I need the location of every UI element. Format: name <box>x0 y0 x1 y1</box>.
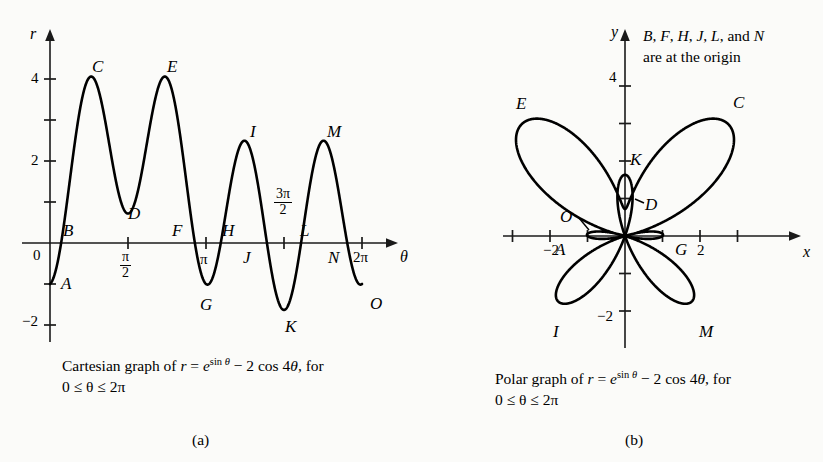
polar-point-M: M <box>699 323 713 340</box>
cartesian-caption-for: , for <box>298 357 324 374</box>
polar-caption-rest: − 2 cos 4 <box>637 370 697 387</box>
cartesian-point-A: A <box>61 275 71 292</box>
polar-point-A: A <box>555 241 565 258</box>
polar-x-axis-name: x <box>803 244 810 260</box>
subfigure-label-b: (b) <box>625 432 643 448</box>
cartesian-xtick-pi: π <box>200 252 208 267</box>
polar-origin-note-line2: are at the origin <box>643 48 741 65</box>
polar-caption-prefix: Polar graph of <box>495 370 588 387</box>
cartesian-point-D: D <box>128 205 140 222</box>
cartesian-point-M: M <box>327 123 341 140</box>
cartesian-caption-theta2: θ <box>290 357 298 374</box>
cartesian-point-F: F <box>172 222 182 239</box>
figure-container: r θ 4 2 0 −2 π2 π 3π2 2π A B C D E F G H… <box>0 0 823 462</box>
cartesian-ytick-4: 4 <box>31 71 39 86</box>
polar-caption-eq: = <box>594 370 611 387</box>
polar-point-K: K <box>630 151 641 168</box>
cartesian-caption-e: e <box>203 357 210 374</box>
polar-caption-theta2: θ <box>697 370 705 387</box>
cartesian-xtick-3pi-over-2: 3π2 <box>274 187 292 217</box>
cartesian-ytick-0: 0 <box>33 248 41 263</box>
polar-caption-e: e <box>610 370 617 387</box>
polar-point-G: G <box>675 241 687 258</box>
cartesian-point-O: O <box>370 295 382 312</box>
polar-point-D: D <box>645 196 657 213</box>
cartesian-point-L: L <box>300 222 309 239</box>
polar-origin-note: B, F, H, J, L, and N are at the origin <box>643 26 813 67</box>
cartesian-y-axis-name: r <box>30 26 36 42</box>
cartesian-point-K: K <box>285 318 296 335</box>
polar-y-axis-name: y <box>611 24 618 40</box>
polar-caption-range: 0 ≤ θ ≤ 2π <box>495 391 558 408</box>
cartesian-point-J: J <box>243 249 251 266</box>
cartesian-ytick-2: 2 <box>31 153 39 168</box>
polar-caption-for: , for <box>705 370 731 387</box>
polar-point-O: O <box>560 208 572 225</box>
cartesian-point-H: H <box>222 222 234 239</box>
cartesian-point-G: G <box>200 296 212 313</box>
polar-point-I: I <box>553 323 559 340</box>
cartesian-caption-rest: − 2 cos 4 <box>230 357 290 374</box>
cartesian-ytick-neg2: −2 <box>22 314 38 329</box>
cartesian-point-E: E <box>167 58 177 75</box>
polar-panel: y x 4 −2 −2 2 B, F, H, J, L, and N are a… <box>403 0 823 462</box>
cartesian-point-C: C <box>92 58 103 75</box>
cartesian-caption: Cartesian graph of r = esin θ − 2 cos 4θ… <box>62 355 372 397</box>
cartesian-panel: r θ 4 2 0 −2 π2 π 3π2 2π A B C D E F G H… <box>0 0 420 462</box>
polar-ytick-neg2: −2 <box>597 309 613 324</box>
cartesian-point-I: I <box>250 123 256 140</box>
subfigure-label-a: (a) <box>192 432 209 448</box>
polar-point-E: E <box>516 95 526 112</box>
polar-ytick-4: 4 <box>609 70 617 85</box>
polar-caption: Polar graph of r = esin θ − 2 cos 4θ, fo… <box>495 368 805 410</box>
cartesian-point-B: B <box>63 222 73 239</box>
cartesian-xtick-pi-over-2: π2 <box>120 250 131 280</box>
polar-caption-exponent: sin θ <box>617 369 637 380</box>
polar-xtick-2: 2 <box>697 243 705 258</box>
cartesian-caption-eq: = <box>186 357 203 374</box>
cartesian-xtick-2pi: 2π <box>353 250 368 265</box>
polar-origin-note-line1: B, F, H, J, L, and N <box>643 27 764 44</box>
cartesian-caption-exponent: sin θ <box>210 356 230 367</box>
cartesian-caption-range: 0 ≤ θ ≤ 2π <box>62 378 125 395</box>
cartesian-caption-prefix: Cartesian graph of <box>62 357 180 374</box>
polar-point-C: C <box>733 94 744 111</box>
cartesian-curve <box>50 77 362 310</box>
cartesian-point-N: N <box>328 249 339 266</box>
polar-leader-lines <box>579 199 644 230</box>
polar-axes <box>503 29 801 348</box>
